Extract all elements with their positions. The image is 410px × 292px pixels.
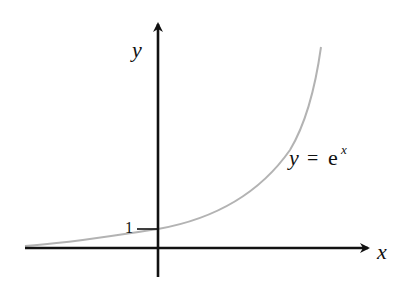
curve-equation-label: y = e x xyxy=(287,142,347,170)
x-axis-label: x xyxy=(376,239,387,264)
y-axis-label: y xyxy=(130,37,142,62)
y-tick-label: 1 xyxy=(125,219,133,236)
equation-exponent: x xyxy=(340,142,347,157)
equation-lhs: y xyxy=(287,145,299,170)
equation-equals: = xyxy=(307,147,318,169)
exponential-curve xyxy=(25,47,321,246)
exponential-graph: y x 1 y = e x xyxy=(0,0,410,292)
equation-base: e xyxy=(328,145,338,170)
